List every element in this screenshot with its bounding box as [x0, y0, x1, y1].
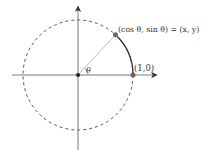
theta-label: θ — [86, 66, 91, 75]
cos-sin-point-label: (cos θ, sin θ) = (x, y) — [118, 25, 199, 34]
origin-point — [76, 73, 80, 77]
unit-point — [131, 73, 136, 78]
unit-point-label: (1,0) — [134, 63, 154, 73]
unit-circle-diagram: θ (1,0) (cos θ, sin θ) = (x, y) — [0, 0, 221, 156]
radius-line — [78, 35, 116, 75]
angle-arc — [116, 35, 134, 75]
